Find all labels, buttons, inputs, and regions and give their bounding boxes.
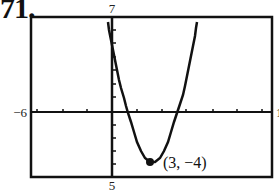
xmax-label: 12 xyxy=(276,105,279,120)
ymax-label: 7 xyxy=(109,1,116,16)
window-frame xyxy=(31,17,272,177)
ymin-label: 5 xyxy=(109,178,116,190)
xmin-label: −6 xyxy=(13,105,27,120)
graph-screen: 7 5 −6 12 (3, −4) xyxy=(0,0,279,190)
parabola-curve xyxy=(108,22,197,162)
vertex-point xyxy=(146,158,154,166)
vertex-label: (3, −4) xyxy=(163,154,207,172)
